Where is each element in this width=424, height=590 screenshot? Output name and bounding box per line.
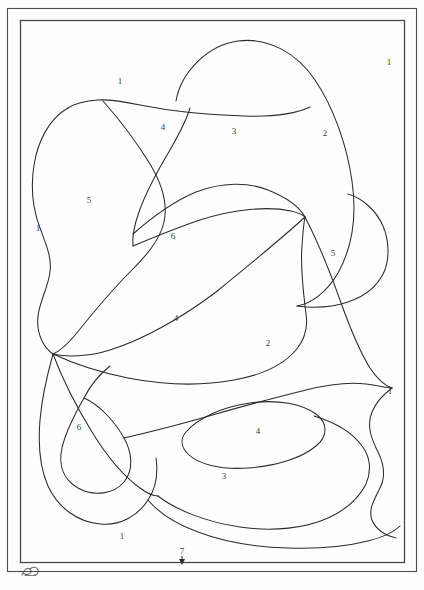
region-label-6-lower-left: 6 — [77, 422, 82, 432]
contour-upper-to-junction — [133, 209, 305, 246]
region-label-6-center: 6 — [171, 231, 176, 241]
contour-2-lower-right — [305, 217, 392, 388]
region-label-1-top: 1 — [118, 76, 123, 86]
region-label-5-left: 5 — [87, 195, 92, 205]
region-label-4-upper: 4 — [161, 122, 166, 132]
contour-4-bottom-ellipse — [182, 402, 325, 469]
region-label-4-lower: 4 — [256, 426, 261, 436]
outer-frame — [8, 9, 417, 572]
region-label-2-upper: 2 — [323, 128, 328, 138]
region-label-1-right: 1 — [388, 386, 393, 396]
contour-4-center-lower — [53, 217, 307, 384]
annotation-pointer-group — [179, 556, 185, 565]
contour-map-canvas — [0, 0, 424, 590]
region-label-1-left: 1 — [36, 223, 41, 233]
region-label-3-lower: 3 — [222, 471, 227, 481]
contour-6-lower-teardrop — [61, 398, 131, 493]
contour-node-to-bottom — [53, 354, 158, 496]
region-label-1-top-right: 1 — [387, 57, 392, 67]
contour-bottom-1-strip — [148, 500, 400, 548]
region-label-2-lower: 2 — [266, 338, 271, 348]
region-label-4-center: 4 — [174, 313, 179, 323]
contour-curves — [32, 40, 400, 548]
contour-5-right-boundary — [53, 101, 165, 354]
region-label-1-bottom: 1 — [120, 531, 125, 541]
figure-root: 1 1 4 3 2 5 1 6 5 4 2 1 6 4 3 1 7 — [0, 0, 424, 590]
marker-label-7: 7 — [180, 546, 185, 556]
signature-monogram-icon — [19, 564, 45, 582]
frame-group — [8, 9, 417, 572]
contour-3-outer — [158, 416, 369, 529]
inner-frame — [21, 21, 405, 563]
contour-right-lobe-5 — [297, 194, 388, 307]
contour-junction-to-lowerleft-a — [53, 217, 305, 356]
region-label-5-right: 5 — [331, 248, 336, 258]
contour-right-edge-1 — [370, 388, 396, 538]
region-label-3-upper: 3 — [232, 126, 237, 136]
